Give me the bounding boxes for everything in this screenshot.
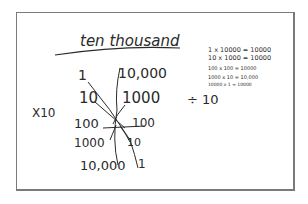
left-value-4: 1000 xyxy=(74,136,105,150)
right-value-1: 10,000 xyxy=(118,65,167,81)
right-value-5: 1 xyxy=(138,157,146,171)
equation-4: 1000 x 10 = 10,000 xyxy=(208,74,258,80)
equation-3: 100 x 100 = 10000 xyxy=(208,65,257,71)
divide-ten-label: ÷ 10 xyxy=(187,92,219,107)
right-value-2: 1000 xyxy=(122,89,160,107)
left-value-5: 10,000 xyxy=(80,158,126,173)
equation-1: 1 x 10000 = 10000 xyxy=(208,46,271,54)
left-value-1: 1 xyxy=(78,67,87,83)
left-value-3: 100 xyxy=(74,116,99,131)
handwritten-sketch: ten thousand 1 10 100 1000 10,000 10,000… xyxy=(0,0,308,204)
times-ten-label: X10 xyxy=(32,106,56,120)
equation-5: 10000 x 1 = 10000 xyxy=(208,82,252,87)
equation-2: 10 x 1000 = 10000 xyxy=(208,54,271,62)
left-value-2: 10 xyxy=(79,89,98,107)
right-value-3: 100 xyxy=(132,116,155,130)
